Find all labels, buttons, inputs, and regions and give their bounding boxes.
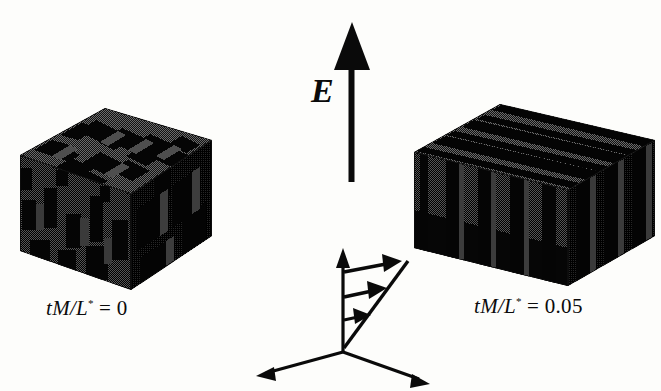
axis-vertical [336, 248, 350, 352]
shear-arrow-3 [344, 254, 402, 272]
label-left-prefix: tM/L [46, 296, 88, 320]
figure-canvas: E [0, 0, 661, 391]
coordinate-triad [0, 0, 661, 391]
axis-left [256, 352, 343, 381]
shear-arrow-1 [344, 308, 371, 324]
axis-right [343, 352, 430, 388]
label-right-panel: tM/L* = 0.05 [474, 294, 583, 319]
shear-profile-hypotenuse [344, 261, 408, 348]
label-right-value: 0.05 [545, 294, 583, 318]
label-right-equals: = [522, 294, 545, 318]
label-left-equals: = [94, 296, 117, 320]
label-right-prefix: tM/L [474, 294, 516, 318]
label-left-panel: tM/L* = 0 [46, 296, 128, 321]
label-left-value: 0 [117, 296, 128, 320]
